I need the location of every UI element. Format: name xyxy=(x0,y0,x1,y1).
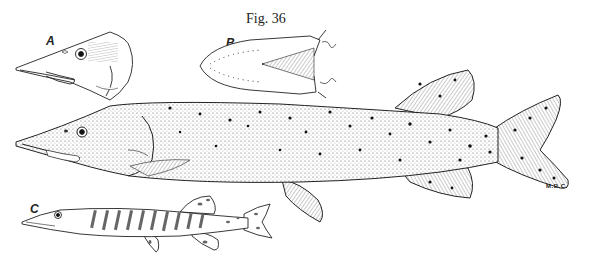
artist-signature: M.B.C. xyxy=(546,183,568,189)
panel-c-juvenile xyxy=(22,196,272,252)
panel-b-ventral-head xyxy=(200,30,336,98)
fish-illustration xyxy=(0,0,589,267)
panel-a-head xyxy=(16,32,133,100)
